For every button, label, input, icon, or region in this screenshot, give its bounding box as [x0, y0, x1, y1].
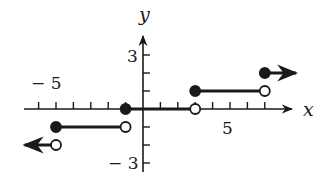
closed-dot [51, 122, 61, 132]
closed-dot [190, 86, 200, 96]
open-dot [260, 86, 270, 96]
open-dot [51, 140, 61, 150]
closed-dot [121, 104, 131, 114]
y-tick-label-3: 3 [127, 46, 138, 66]
y-tick-label-neg3: − 3 [108, 153, 138, 173]
plot-area: y x − 5 5 3 − 3 [0, 0, 323, 177]
x-axis-label: x [303, 98, 314, 120]
x-tick-label-5: 5 [222, 118, 233, 138]
closed-dot [260, 68, 270, 78]
step-function-graph: y x − 5 5 3 − 3 [0, 0, 323, 177]
x-tick-label-neg5: − 5 [31, 73, 61, 93]
open-dot [121, 122, 131, 132]
open-dot [190, 104, 200, 114]
y-axis-label: y [138, 3, 150, 25]
